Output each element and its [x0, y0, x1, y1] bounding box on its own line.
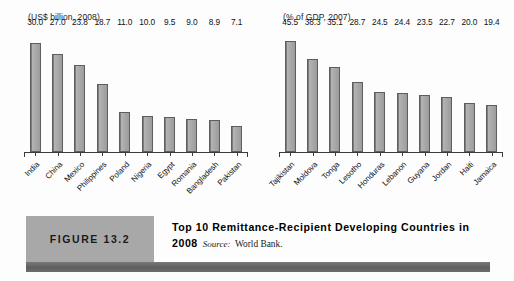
bar — [186, 119, 197, 152]
bar — [52, 54, 63, 152]
bar-group: 24.5 — [369, 28, 391, 152]
axis-tick — [80, 152, 81, 156]
bar-group: 19.4 — [481, 28, 503, 152]
bar — [285, 41, 296, 152]
tick-slot — [346, 152, 368, 157]
tick-slot — [69, 152, 91, 157]
axis-tick — [447, 152, 448, 156]
x-tick-labels-left: IndiaChinaMexicoPhilippinesPolandNigeria… — [24, 158, 248, 200]
bar-group: 27.0 — [46, 28, 68, 152]
bar-group: 28.7 — [346, 28, 368, 152]
bar-group: 9.5 — [158, 28, 180, 152]
x-tick-label: Haiti — [458, 160, 475, 177]
caption-rule — [26, 262, 490, 272]
bar — [119, 112, 130, 152]
axis-tick — [125, 152, 126, 156]
bar — [486, 105, 497, 152]
bar-group: 10.0 — [136, 28, 158, 152]
bar-value-label: 9.0 — [186, 17, 197, 27]
tick-slot — [226, 152, 248, 157]
x-tick-label: Tajikistan — [268, 160, 297, 189]
bar — [164, 117, 175, 152]
axis-ticks-right — [279, 152, 503, 157]
bar-group: 23.8 — [69, 28, 91, 152]
source-label: Source: — [203, 239, 231, 249]
bar-value-label: 11.0 — [117, 17, 132, 27]
bar-group: 23.5 — [413, 28, 435, 152]
bar-series-left: 30.027.023.818.711.010.09.59.08.97.1 — [24, 28, 248, 152]
tick-slot — [136, 152, 158, 157]
category-slot: Jamaica — [481, 158, 503, 200]
axis-tick — [237, 152, 238, 156]
tick-slot — [91, 152, 113, 157]
bar-group: 45.5 — [279, 28, 301, 152]
bar — [74, 65, 85, 152]
caption-title-year: 2008 — [172, 237, 198, 249]
bar-value-label: 7.1 — [231, 17, 242, 27]
figure-caption: FIGURE 13.2 Top 10 Remittance-Recipient … — [26, 216, 490, 262]
x-tick-labels-right: TajikistanMoldovaTongaLesothoHondurasLeb… — [279, 158, 503, 200]
bar-value-label: 8.9 — [209, 17, 220, 27]
tick-slot — [24, 152, 46, 157]
axis-tick — [214, 152, 215, 156]
bar-value-label: 38.3 — [305, 17, 321, 27]
bar-group: 38.3 — [301, 28, 323, 152]
source-value: World Bank. — [235, 239, 283, 249]
bar-value-label: 24.5 — [372, 17, 388, 27]
bar-group: 20.0 — [458, 28, 480, 152]
tick-slot — [369, 152, 391, 157]
axis-tick — [170, 152, 171, 156]
tick-slot — [158, 152, 180, 157]
axis-ticks-left — [24, 152, 248, 157]
tick-slot — [458, 152, 480, 157]
category-slot: Pakistan — [226, 158, 248, 200]
x-tick-label: India — [23, 160, 41, 178]
axis-tick — [469, 152, 470, 156]
category-slot: Nigeria — [136, 158, 158, 200]
bar — [97, 84, 108, 152]
bar — [397, 93, 408, 152]
bar — [374, 92, 385, 152]
axis-tick — [402, 152, 403, 156]
axis-tick — [492, 152, 493, 156]
tick-slot — [391, 152, 413, 157]
bar-value-label: 19.4 — [484, 17, 500, 27]
bar-group: 30.0 — [24, 28, 46, 152]
caption-body: Top 10 Remittance-Recipient Developing C… — [172, 220, 490, 251]
plot-area-right: 45.538.335.128.724.524.423.522.720.019.4 — [279, 28, 503, 152]
axis-tick — [290, 152, 291, 156]
bar — [30, 43, 41, 152]
bar-value-label: 10.0 — [139, 17, 155, 27]
tick-slot — [46, 152, 68, 157]
bar-group: 7.1 — [226, 28, 248, 152]
bar-group: 18.7 — [91, 28, 113, 152]
axis-tick — [380, 152, 381, 156]
bar — [307, 59, 318, 152]
axis-tick — [357, 152, 358, 156]
caption-title: Top 10 Remittance-Recipient Developing C… — [172, 220, 490, 235]
bar — [419, 95, 430, 152]
bar — [464, 103, 475, 152]
bar-group: 11.0 — [114, 28, 136, 152]
figure-number-label: FIGURE 13.2 — [50, 233, 131, 245]
tick-slot — [413, 152, 435, 157]
bar-group: 24.4 — [391, 28, 413, 152]
bar-group: 8.9 — [203, 28, 225, 152]
tick-slot — [481, 152, 503, 157]
category-slot: Jordan — [436, 158, 458, 200]
bar-group: 35.1 — [324, 28, 346, 152]
bar-value-label: 23.5 — [417, 17, 433, 27]
axis-tick — [58, 152, 59, 156]
figure-container: (US$ billion, 2008) 30.027.023.818.711.0… — [0, 0, 514, 281]
bar — [209, 120, 220, 152]
bar-value-label: 22.7 — [439, 17, 455, 27]
axis-tick — [335, 152, 336, 156]
tick-slot — [181, 152, 203, 157]
figure-number-badge: FIGURE 13.2 — [26, 216, 154, 262]
bar-value-label: 20.0 — [461, 17, 477, 27]
x-tick-label: China — [43, 160, 64, 181]
category-slot: India — [24, 158, 46, 200]
bar-series-right: 45.538.335.128.724.524.423.522.720.019.4 — [279, 28, 503, 152]
bar — [329, 67, 340, 152]
bar-value-label: 35.1 — [327, 17, 343, 27]
